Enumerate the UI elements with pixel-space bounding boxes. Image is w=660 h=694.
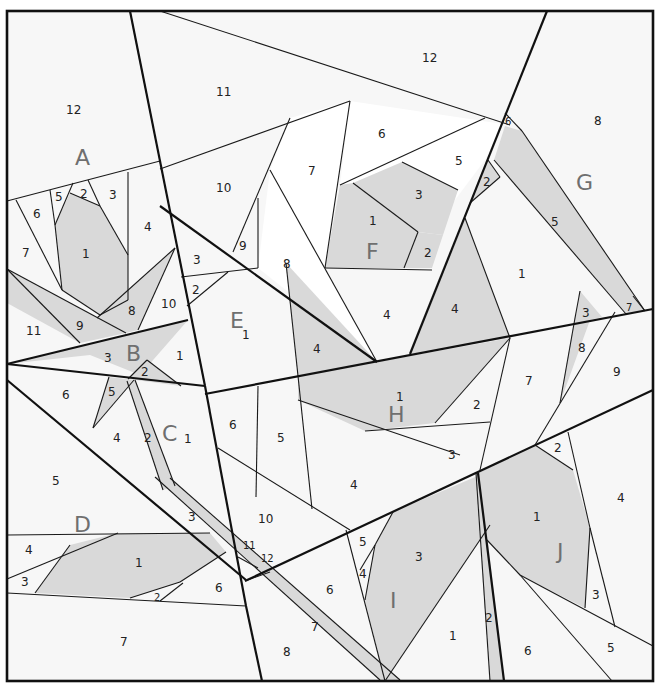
piece-label: 2 bbox=[485, 611, 493, 625]
section-letter-a: A bbox=[75, 145, 90, 170]
section-letter-g: G bbox=[576, 170, 593, 195]
piece-label: 5 bbox=[55, 190, 63, 204]
piece-label: 5 bbox=[52, 474, 60, 488]
piece-label: 2 bbox=[424, 246, 432, 260]
piece-label: 11 bbox=[26, 324, 41, 338]
piece-label: 3 bbox=[582, 306, 590, 320]
piece-label: 2 bbox=[554, 441, 562, 455]
piece-label: 6 bbox=[378, 127, 386, 141]
piece-label: 2 bbox=[144, 431, 152, 445]
piece-label: 7 bbox=[525, 374, 533, 388]
piece-label: 2 bbox=[192, 283, 200, 297]
piece-label: 7 bbox=[120, 635, 128, 649]
quilt-pattern-diagram: A B C D E F G H I J 12 1 2 3 4 5 6 7 8 9… bbox=[0, 0, 660, 694]
piece-label: 6 bbox=[62, 388, 70, 402]
piece-label: 4 bbox=[350, 478, 358, 492]
piece-label: 11 bbox=[216, 85, 231, 99]
section-letter-c: C bbox=[162, 421, 177, 446]
piece-label: 5 bbox=[277, 431, 285, 445]
section-letter-d: D bbox=[74, 512, 91, 537]
piece-label: 1 bbox=[518, 267, 526, 281]
piece-label: 4 bbox=[617, 491, 625, 505]
piece-label: 7 bbox=[308, 164, 316, 178]
piece-label: 1 bbox=[184, 432, 192, 446]
piece-label: 1 bbox=[82, 247, 90, 261]
piece-label: 4 bbox=[113, 431, 121, 445]
piece-label: 6 bbox=[33, 207, 41, 221]
piece-label: 7 bbox=[626, 302, 632, 313]
piece-label: 2 bbox=[154, 592, 160, 603]
section-letter-h: H bbox=[388, 402, 405, 427]
section-letter-j: J bbox=[555, 539, 564, 564]
piece-label: 4 bbox=[313, 342, 321, 356]
piece-label: 4 bbox=[383, 308, 391, 322]
piece-label: 8 bbox=[578, 341, 586, 355]
piece-label: 10 bbox=[216, 181, 231, 195]
piece-label: 9 bbox=[76, 319, 84, 333]
section-letter-f: F bbox=[366, 239, 379, 264]
piece-label: 3 bbox=[104, 351, 112, 365]
piece-label: 3 bbox=[592, 588, 600, 602]
piece-label: 5 bbox=[108, 385, 116, 399]
section-letter-b: B bbox=[126, 341, 141, 366]
section-letter-i: I bbox=[390, 588, 397, 613]
piece-label: 4 bbox=[451, 302, 459, 316]
piece-label: 6 bbox=[505, 116, 511, 127]
piece-label: 3 bbox=[415, 188, 423, 202]
piece-label: 12 bbox=[66, 103, 81, 117]
piece-label: 2 bbox=[80, 187, 88, 201]
piece-label: 6 bbox=[326, 583, 334, 597]
piece-label: 6 bbox=[524, 644, 532, 658]
piece-label: 12 bbox=[422, 51, 437, 65]
piece-label: 10 bbox=[161, 297, 176, 311]
piece-label: 2 bbox=[141, 365, 149, 379]
piece-label: 4 bbox=[359, 567, 367, 581]
piece-label: 6 bbox=[229, 418, 237, 432]
piece-label: 1 bbox=[449, 629, 457, 643]
piece-label: 3 bbox=[448, 448, 456, 462]
piece-label: 3 bbox=[415, 550, 423, 564]
piece-label: 10 bbox=[258, 512, 273, 526]
piece-label: 6 bbox=[215, 581, 223, 595]
piece-label: 1 bbox=[242, 328, 250, 342]
piece-label: 1 bbox=[135, 556, 143, 570]
piece-label: 3 bbox=[21, 575, 29, 589]
piece-label: 2 bbox=[483, 175, 491, 189]
piece-label: 9 bbox=[239, 239, 247, 253]
piece-label: 4 bbox=[25, 543, 33, 557]
piece-label: 5 bbox=[551, 215, 559, 229]
piece-label: 12 bbox=[261, 553, 274, 564]
piece-label: 3 bbox=[109, 188, 117, 202]
piece-label: 5 bbox=[607, 641, 615, 655]
piece-label: 3 bbox=[193, 253, 201, 267]
piece-label: 1 bbox=[369, 214, 377, 228]
piece-label: 5 bbox=[455, 154, 463, 168]
piece-label: 8 bbox=[283, 645, 291, 659]
piece-label: 7 bbox=[311, 620, 319, 634]
piece-label: 3 bbox=[188, 510, 196, 524]
piece-label: 7 bbox=[22, 246, 30, 260]
piece-label: 5 bbox=[359, 535, 367, 549]
piece-label: 11 bbox=[243, 540, 256, 551]
piece-label: 9 bbox=[613, 365, 621, 379]
piece-label: 8 bbox=[283, 257, 291, 271]
piece-label: 1 bbox=[533, 510, 541, 524]
quilt-pattern-svg: A B C D E F G H I J 12 1 2 3 4 5 6 7 8 9… bbox=[0, 0, 660, 694]
piece-label: 8 bbox=[594, 114, 602, 128]
piece-label: 1 bbox=[176, 349, 184, 363]
piece-label: 2 bbox=[473, 398, 481, 412]
piece-label: 8 bbox=[128, 304, 136, 318]
piece-label: 1 bbox=[396, 390, 404, 404]
piece-label: 4 bbox=[144, 220, 152, 234]
